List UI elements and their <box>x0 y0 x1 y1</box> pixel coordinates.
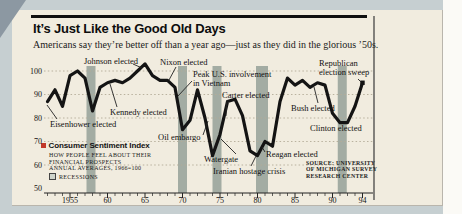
annotation-peak-us-involvement-in-vietnam: Peak U.S. involvementin Vietnam <box>193 70 271 87</box>
y-tick-label-70: 70 <box>20 137 42 146</box>
annotation-line: Bush elected <box>291 104 335 113</box>
leader-watergate <box>221 139 236 154</box>
annotation-line: in Vietnam <box>193 79 271 88</box>
x-tick-label-1980: 80 <box>245 196 271 205</box>
annotation-line: Nixon elected <box>160 58 207 67</box>
annotation-nixon-elected: Nixon elected <box>160 58 207 67</box>
annotation-watergate: Watergate <box>204 155 238 164</box>
leader-kennedy-elected <box>110 84 117 107</box>
line-end-marker <box>360 81 364 85</box>
source-credit: SOURCE: UNIVERSITY OF MICHIGAN SURVEY RE… <box>306 160 377 179</box>
leader-republican-election-sweep <box>358 79 361 82</box>
leader-nixon-elected <box>169 67 176 80</box>
annotation-line: Johnson elected <box>84 57 138 66</box>
annotation-line: Oil embargo <box>158 133 201 142</box>
annotation-kennedy-elected: Kennedy elected <box>110 108 167 117</box>
y-tick-label-60: 60 <box>20 161 42 170</box>
chart-canvas <box>0 0 462 214</box>
y-tick-label-80: 80 <box>20 114 42 123</box>
leader-iranian-hostage-crisis <box>251 156 256 166</box>
x-tick-label-1994: 94 <box>350 196 376 205</box>
annotation-line: election sweep <box>319 68 369 77</box>
x-tick-label-1975: 75 <box>207 196 233 205</box>
annotation-line: Reagan elected <box>266 150 318 159</box>
y-tick-label-90: 90 <box>20 90 42 99</box>
annotation-carter-elected: Carter elected <box>222 91 269 100</box>
annotation-line: Clinton elected <box>310 124 362 133</box>
x-tick-label-1990: 90 <box>320 196 346 205</box>
x-tick-label-1955: 1955 <box>57 196 83 205</box>
annotation-iranian-hostage-crisis: Iranian hostage crisis <box>213 167 285 176</box>
x-tick-label-1985: 85 <box>282 196 308 205</box>
annotation-line: Watergate <box>204 155 238 164</box>
legend-line-1: HOW PEOPLE FEEL ABOUT THEIR <box>49 152 151 159</box>
source-line-3: RESEARCH CENTER <box>306 173 377 179</box>
legend-line-3: ANNUAL AVERAGES, 1966=100 <box>49 165 151 172</box>
x-tick-label-1970: 70 <box>170 196 196 205</box>
legend-title-row: Consumer Sentiment Index <box>41 141 151 150</box>
legend-recession-row: RECESSIONS <box>49 173 151 180</box>
annotation-eisenhower-elected: Eisenhower elected <box>50 120 116 129</box>
legend-line-2: FINANCIAL PROSPECTS <box>49 159 151 166</box>
y-tick-label-100: 100 <box>20 67 42 76</box>
annotation-line: Carter elected <box>222 91 269 100</box>
annotation-clinton-elected: Clinton elected <box>310 124 362 133</box>
legend-recession-label: RECESSIONS <box>59 174 98 180</box>
x-tick-label-1965: 65 <box>132 196 158 205</box>
annotation-line: Iranian hostage crisis <box>213 167 285 176</box>
source-line-2: OF MICHIGAN SURVEY <box>306 166 377 172</box>
annotation-bush-elected: Bush elected <box>291 104 335 113</box>
legend-title: Consumer Sentiment Index <box>49 141 150 150</box>
leader-bush-elected <box>314 87 318 103</box>
annotation-line: Kennedy elected <box>110 108 167 117</box>
page: It’s Just Like the Good Old Days America… <box>0 0 462 214</box>
page-corner-fold <box>0 0 26 38</box>
annotation-republican-election-sweep: Republicanelection sweep <box>319 59 369 76</box>
annotation-reagan-elected: Reagan elected <box>266 150 318 159</box>
recession-swatch-icon <box>49 173 56 180</box>
annotation-oil-embargo: Oil embargo <box>158 133 201 142</box>
legend: Consumer Sentiment Index HOW PEOPLE FEEL… <box>41 141 151 180</box>
x-tick-label-1960: 60 <box>95 196 121 205</box>
annotation-johnson-elected: Johnson elected <box>84 57 138 66</box>
leader-eisenhower-elected <box>47 105 57 119</box>
annotation-line: Eisenhower elected <box>50 120 116 129</box>
y-tick-label-50: 50 <box>20 184 42 193</box>
